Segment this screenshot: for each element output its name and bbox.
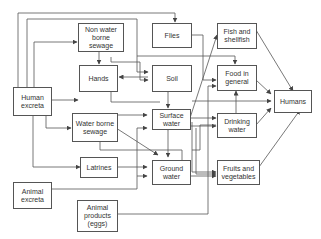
node-drinking-water: Drinking water [217,113,257,138]
node-fish-and-shellfish: Fish and shellfish [217,23,257,49]
node-water-borne-sewage: Water borne sewage [72,113,118,142]
node-fruits-and-vegetables: Fruits and vegetables [217,160,260,185]
node-non-water-borne-sewage: Non water borne sewage [78,23,124,52]
node-hands: Hands [79,65,118,92]
node-latrines: Latrines [80,157,118,178]
node-animal-excreta: Animal excreta [13,182,52,209]
node-surface-water: Surface water [152,109,191,130]
node-flies: Flies [152,23,192,48]
node-soil: Soil [152,65,192,92]
node-food-in-general: Food in general [217,65,257,91]
node-animal-products: Animal products (eggs) [77,200,118,232]
node-ground-water: Ground water [152,160,191,185]
node-human-excreta: Human excreta [13,87,52,116]
node-humans: Humans [274,90,312,113]
